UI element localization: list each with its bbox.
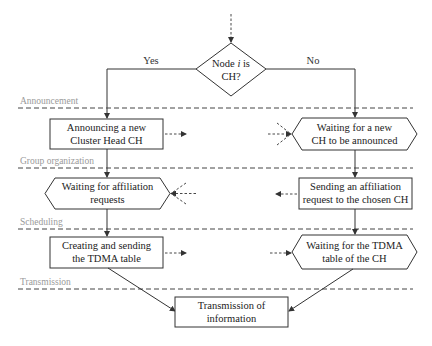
svg-text:Waiting for the TDMA: Waiting for the TDMA <box>306 240 403 251</box>
phase-transmission: Transmission <box>18 277 413 289</box>
phase-scheduling: Scheduling <box>18 217 413 229</box>
svg-text:Transmission of: Transmission of <box>198 300 266 311</box>
create-tdma-node: Creating and sending the TDMA table <box>50 237 163 268</box>
svg-text:request to the chosen CH: request to the chosen CH <box>303 194 409 205</box>
wait-ch-in-fan-arrows <box>268 123 291 145</box>
wait-affiliation-node: Waiting for affiliation requests <box>45 178 170 209</box>
svg-text:Announcing a new: Announcing a new <box>67 122 147 133</box>
send-affiliation-node: Sending an affiliation request to the ch… <box>299 178 412 209</box>
phase-label: Announcement <box>20 96 78 106</box>
decision-line1: Node i is <box>212 58 250 69</box>
svg-text:Waiting for affiliation: Waiting for affiliation <box>62 181 154 192</box>
yes-branch-line <box>107 69 196 118</box>
svg-text:Creating and sending: Creating and sending <box>62 240 152 251</box>
no-branch-line <box>266 69 355 117</box>
svg-text:table of the CH: table of the CH <box>322 253 387 264</box>
svg-text:information: information <box>207 313 257 324</box>
flowchart: Node i is CH? Yes No Announcement Group … <box>0 0 432 346</box>
connector <box>289 269 353 311</box>
no-label: No <box>307 55 320 66</box>
announce-ch-node: Announcing a new Cluster Head CH <box>50 119 163 149</box>
yes-label: Yes <box>143 55 158 66</box>
svg-text:Waiting for a new: Waiting for a new <box>317 122 393 133</box>
decision-node: Node i is CH? <box>196 43 266 96</box>
phase-label: Scheduling <box>20 217 63 227</box>
affiliation-in-fan-arrows <box>171 183 196 204</box>
svg-text:the TDMA table: the TDMA table <box>72 253 141 264</box>
svg-text:Cluster Head CH: Cluster Head CH <box>70 135 143 146</box>
decision-line2: CH? <box>221 71 241 82</box>
svg-text:requests: requests <box>90 194 124 205</box>
svg-text:CH to be announced: CH to be announced <box>311 135 398 146</box>
wait-ch-node: Waiting for a new CH to be announced <box>292 118 417 150</box>
phase-label: Group organization <box>20 156 94 166</box>
wait-tdma-node: Waiting for the TDMA table of the CH <box>292 235 417 269</box>
transmission-node: Transmission of information <box>175 297 288 327</box>
phase-label: Transmission <box>20 277 71 287</box>
svg-text:Sending an affiliation: Sending an affiliation <box>310 181 402 192</box>
phase-announcement: Announcement <box>18 96 413 108</box>
phase-group-organization: Group organization <box>18 156 413 168</box>
